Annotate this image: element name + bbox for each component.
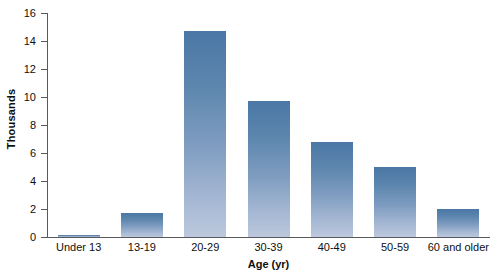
bar-slot: [311, 13, 353, 237]
bar-slot: [437, 13, 479, 237]
y-axis-tick: [41, 237, 47, 238]
bar[interactable]: [437, 209, 479, 237]
bar-slot: [58, 13, 100, 237]
x-axis-title: Age (yr): [47, 258, 490, 270]
x-axis-category-label: 40-49: [300, 241, 363, 253]
bar[interactable]: [311, 142, 353, 237]
x-axis-category-label: 13-19: [110, 241, 173, 253]
bar[interactable]: [58, 235, 100, 237]
bar[interactable]: [248, 101, 290, 237]
y-axis-tick-label: 6: [6, 147, 36, 159]
y-axis-tick-label: 8: [6, 119, 36, 131]
y-axis-tick-label: 12: [6, 63, 36, 75]
y-axis-tick-label: 10: [6, 91, 36, 103]
x-axis-line: [47, 237, 490, 238]
x-axis-category-label: 20-29: [174, 241, 237, 253]
bar[interactable]: [374, 167, 416, 237]
y-axis-tick-label: 14: [6, 35, 36, 47]
bar-slot: [184, 13, 226, 237]
bar-slot: [374, 13, 416, 237]
y-axis-tick-label: 16: [6, 7, 36, 19]
x-axis-category-label: 50-59: [363, 241, 426, 253]
bar-slot: [248, 13, 290, 237]
y-axis-tick-label: 0: [6, 231, 36, 243]
bar-chart: Thousands 0246810121416 Under 1313-1920-…: [0, 0, 495, 280]
x-axis-category-label: 30-39: [237, 241, 300, 253]
bar[interactable]: [184, 31, 226, 237]
x-axis-category-label: Under 13: [47, 241, 110, 253]
y-axis-tick-label: 4: [6, 175, 36, 187]
bar-slot: [121, 13, 163, 237]
bars-layer: [47, 13, 490, 237]
x-axis-category-label: 60 and older: [427, 241, 490, 253]
y-axis-tick-label: 2: [6, 203, 36, 215]
bar[interactable]: [121, 213, 163, 237]
